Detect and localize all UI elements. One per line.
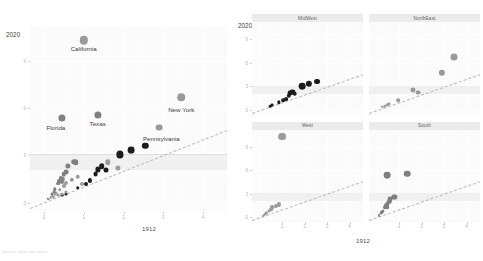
grid-line-vertical (377, 22, 378, 115)
y-tick-label: 3 (245, 191, 248, 196)
grid-line-vertical-minor (293, 22, 294, 115)
y-tick-mark (28, 203, 30, 204)
grid-line-horizontal (369, 110, 480, 111)
figure-caption: Source: state vote totals (2, 249, 47, 254)
data-point (73, 160, 79, 166)
x-tick-label: 4 (465, 224, 468, 229)
y-tick-mark (250, 86, 252, 87)
y-tick-mark (250, 217, 252, 218)
x-tick-mark (203, 212, 204, 214)
data-point (282, 99, 286, 103)
y-tick-label: 9 (245, 37, 248, 42)
x-tick-label: 3 (326, 224, 329, 229)
grid-line-horizontal (369, 39, 480, 40)
state-label: Pennsylvania (143, 135, 180, 142)
y-tick-label: 3 (23, 153, 26, 158)
x-tick-label: 2 (122, 215, 125, 220)
state-label: New York (168, 106, 194, 113)
x-tick-label: 4 (348, 224, 351, 229)
grid-line-vertical (305, 22, 306, 115)
grid-line-vertical-minor (293, 130, 294, 223)
main-x-axis-title: 1912 (142, 226, 156, 232)
data-point (60, 192, 63, 195)
y-tick-mark (28, 61, 30, 62)
data-point (76, 186, 80, 190)
data-point (292, 91, 297, 96)
facet-panel-northeast (369, 22, 480, 115)
grid-line-vertical-minor (104, 26, 105, 212)
state-label: Florida (46, 124, 65, 131)
grid-line-vertical (305, 130, 306, 223)
grid-line-vertical-minor (143, 26, 144, 212)
facet-y-axis-corner-label: 2020 (238, 22, 252, 29)
state-label: Texas (90, 120, 106, 127)
state-label: California (71, 45, 97, 52)
data-point (383, 105, 386, 108)
y-tick-mark (28, 155, 30, 156)
grid-line-vertical (327, 130, 328, 223)
x-tick-mark (163, 212, 164, 214)
grid-line-vertical (124, 26, 125, 212)
data-point (58, 188, 61, 191)
y-tick-label: 0 (23, 200, 26, 205)
y-tick-mark (250, 147, 252, 148)
data-point (62, 184, 66, 188)
figure-root: 2020 1912 2020 MidWest9630NorthEastWest1… (0, 0, 483, 261)
y-tick-mark (28, 108, 30, 109)
data-point (177, 93, 185, 101)
y-tick-label: 6 (23, 105, 26, 110)
grid-line-vertical-minor (388, 22, 389, 115)
highlight-band-top-line (30, 154, 227, 155)
grid-line-horizontal (252, 63, 363, 64)
grid-line-vertical (44, 26, 45, 212)
grid-line-horizontal (30, 108, 227, 109)
x-tick-label: 1 (398, 224, 401, 229)
facet-panel-midwest (252, 22, 363, 115)
grid-line-horizontal-minor (30, 84, 227, 85)
y-tick-mark (250, 170, 252, 171)
facet-strip-midwest: MidWest (252, 14, 363, 22)
data-point (84, 182, 88, 186)
x-tick-label: 0 (43, 215, 46, 220)
facet-strip-label: MidWest (298, 16, 317, 21)
data-point (94, 111, 101, 118)
facet-strip-northeast: NorthEast (369, 14, 480, 22)
main-scatter-panel (30, 26, 227, 212)
grid-line-vertical-minor (433, 22, 434, 115)
data-point (50, 192, 53, 195)
data-point (60, 180, 64, 184)
grid-line-vertical (350, 22, 351, 115)
data-point (56, 182, 60, 186)
grid-line-vertical-minor (316, 22, 317, 115)
data-point (380, 212, 383, 215)
data-point (142, 143, 148, 149)
main-y-axis-corner-label: 2020 (6, 31, 20, 38)
x-tick-mark (44, 212, 45, 214)
data-point (56, 194, 59, 197)
grid-line-horizontal (252, 110, 363, 111)
grid-line-vertical-minor (455, 130, 456, 223)
data-point (396, 99, 400, 103)
y-tick-mark (250, 63, 252, 64)
grid-line-vertical (422, 22, 423, 115)
grid-line-vertical-minor (433, 130, 434, 223)
grid-line-vertical (422, 130, 423, 223)
data-point (156, 124, 163, 131)
data-point (451, 54, 458, 61)
grid-line-horizontal-minor (30, 37, 227, 38)
y-tick-mark (250, 110, 252, 111)
data-point (103, 168, 108, 173)
data-point (384, 172, 391, 179)
grid-line-vertical (444, 130, 445, 223)
grid-line-horizontal (252, 39, 363, 40)
facet-panel-south (369, 130, 480, 223)
grid-line-vertical (467, 130, 468, 223)
data-point (314, 79, 320, 85)
data-point (80, 182, 84, 186)
x-tick-label: 3 (443, 224, 446, 229)
grid-line-vertical (377, 130, 378, 223)
data-point (404, 170, 411, 177)
grid-line-vertical-minor (183, 26, 184, 212)
data-point (416, 90, 421, 95)
data-point (80, 36, 88, 44)
